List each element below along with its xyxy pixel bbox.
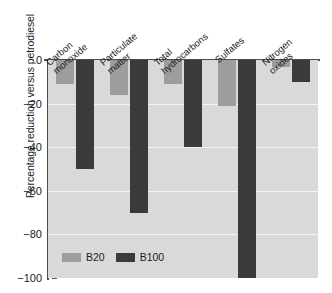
bar (76, 60, 94, 169)
y-tick-label: −80 (12, 228, 42, 240)
gridline (48, 191, 318, 192)
y-tick-label: −20 (12, 98, 42, 110)
legend-label: B100 (140, 251, 165, 263)
bar-chart: Percentage reduction versus petrodiesel … (0, 0, 332, 293)
y-axis-ticks: 0−20−40−60−80−100 (10, 0, 42, 293)
bar (238, 60, 256, 278)
bar (218, 60, 236, 106)
gridline (48, 234, 318, 235)
chart-legend: B20B100 (62, 251, 164, 263)
bar (184, 60, 202, 147)
legend-swatch (116, 253, 135, 262)
legend-item: B20 (62, 251, 105, 263)
y-tick-label: −40 (12, 141, 42, 153)
y-tick-label: −100 (12, 272, 42, 284)
legend-swatch (62, 253, 81, 262)
legend-item: B100 (116, 251, 165, 263)
legend-label: B20 (86, 251, 105, 263)
y-tick-mark (52, 278, 57, 279)
bar (292, 60, 310, 82)
y-tick-label: 0 (12, 54, 42, 66)
bar (130, 60, 148, 213)
plot-area (48, 60, 318, 278)
y-tick-label: −60 (12, 185, 42, 197)
